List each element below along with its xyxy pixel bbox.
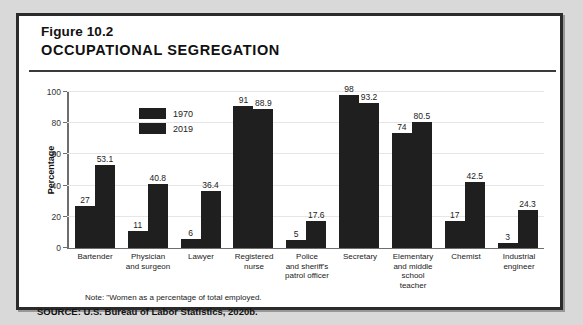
- bar-group: 1742.5: [438, 92, 491, 248]
- bar[interactable]: 36.4: [201, 92, 221, 248]
- y-tick-mark: [63, 122, 67, 123]
- bar-fill: [286, 240, 306, 248]
- bar[interactable]: 42.5: [465, 92, 485, 248]
- bar-value-label: 24.3: [519, 199, 536, 209]
- x-axis-label: Policeand sheriff'spatrol officer: [281, 252, 334, 290]
- bar-fill: [253, 109, 273, 248]
- x-axis-label: Registerednurse: [228, 252, 281, 290]
- bar-value-label: 27: [80, 195, 89, 205]
- bar[interactable]: 3: [498, 92, 518, 248]
- bar[interactable]: 24.3: [518, 92, 538, 248]
- bar-fill: [498, 243, 518, 248]
- bar-value-label: 88.9: [255, 98, 272, 108]
- bar-value-label: 80.5: [414, 111, 431, 121]
- x-axis-label: Lawyer: [175, 252, 228, 290]
- bar[interactable]: 5: [286, 92, 306, 248]
- bar-value-label: 53.1: [97, 154, 114, 164]
- bar-group: 2753.1: [69, 92, 122, 248]
- y-tick-label: 80: [52, 118, 61, 128]
- bar-fill: [75, 206, 95, 248]
- x-axis-labels: BartenderPhysicianand surgeonLawyerRegis…: [69, 252, 546, 290]
- bar-fill: [445, 221, 465, 248]
- legend-label: 2019: [173, 124, 193, 134]
- bar[interactable]: 17: [445, 92, 465, 248]
- bar[interactable]: 98: [339, 92, 359, 248]
- bar-fill: [95, 165, 115, 248]
- bar-fill: [306, 221, 326, 248]
- bar-value-label: 91: [239, 95, 248, 105]
- bar-group: 517.6: [280, 92, 333, 248]
- bar-fill: [339, 95, 359, 248]
- bar-value-label: 36.4: [202, 180, 219, 190]
- bar-fill: [148, 184, 168, 248]
- bar-value-label: 11: [133, 220, 142, 230]
- legend-swatch: [139, 123, 166, 134]
- bar-fill: [465, 182, 485, 248]
- bar-group: 324.3: [491, 92, 544, 248]
- title-divider: [29, 70, 556, 72]
- figure-note: Note: "Women as a percentage of total em…: [85, 293, 262, 302]
- bar-value-label: 17: [450, 210, 459, 220]
- y-tick-label: 100: [47, 87, 61, 97]
- y-tick-label: 60: [52, 149, 61, 159]
- bar-fill: [128, 231, 148, 248]
- bar-value-label: 5: [294, 229, 299, 239]
- bar-group: 9188.9: [227, 92, 280, 248]
- chart-legend: 19702019: [139, 108, 193, 138]
- x-axis-label: Elementaryand middleschool teacher: [387, 252, 440, 290]
- bar[interactable]: 17.6: [306, 92, 326, 248]
- y-tick-mark: [63, 247, 67, 248]
- x-axis-label: Bartender: [69, 252, 122, 290]
- bar-value-label: 6: [188, 228, 193, 238]
- bar-fill: [359, 103, 379, 248]
- y-tick-mark: [63, 91, 67, 92]
- bar-value-label: 74: [397, 122, 406, 132]
- bar-value-label: 93.2: [361, 92, 378, 102]
- bar-fill: [233, 106, 253, 248]
- bar-fill: [392, 133, 412, 248]
- bar-value-label: 40.8: [149, 173, 166, 183]
- bar[interactable]: 74: [392, 92, 412, 248]
- bar-fill: [181, 239, 201, 248]
- legend-swatch: [139, 108, 166, 119]
- y-tick-mark: [63, 216, 67, 217]
- x-axis-label: Industrialengineer: [493, 252, 546, 290]
- legend-label: 1970: [173, 109, 193, 119]
- legend-item[interactable]: 2019: [139, 123, 193, 134]
- bar-value-label: 42.5: [466, 171, 483, 181]
- figure-card: Figure 10.2 OCCUPATIONAL SEGREGATION Per…: [16, 13, 563, 310]
- bar[interactable]: 53.1: [95, 92, 115, 248]
- figure-number: Figure 10.2: [41, 24, 113, 39]
- x-axis-label: Physicianand surgeon: [122, 252, 175, 290]
- bar[interactable]: 80.5: [412, 92, 432, 248]
- bar-value-label: 3: [505, 232, 510, 242]
- x-axis-label: Secretary: [334, 252, 387, 290]
- figure-title: OCCUPATIONAL SEGREGATION: [41, 42, 280, 58]
- bar-group: 9893.2: [333, 92, 386, 248]
- bar-fill: [412, 122, 432, 248]
- bar-fill: [201, 191, 221, 248]
- y-tick-label: 40: [52, 181, 61, 191]
- bar[interactable]: 27: [75, 92, 95, 248]
- bar[interactable]: 91: [233, 92, 253, 248]
- bar[interactable]: 88.9: [253, 92, 273, 248]
- bar-value-label: 98: [344, 84, 353, 94]
- y-tick-label: 0: [56, 243, 61, 253]
- bar-value-label: 17.6: [308, 210, 325, 220]
- y-tick-label: 20: [52, 212, 61, 222]
- legend-item[interactable]: 1970: [139, 108, 193, 119]
- x-axis-label: Chemist: [440, 252, 493, 290]
- bar-group: 7480.5: [385, 92, 438, 248]
- figure-source: SOURCE: U.S. Bureau of Labor Statistics,…: [37, 306, 258, 317]
- y-tick-mark: [63, 153, 67, 154]
- bar[interactable]: 93.2: [359, 92, 379, 248]
- bar-fill: [518, 210, 538, 248]
- y-tick-mark: [63, 185, 67, 186]
